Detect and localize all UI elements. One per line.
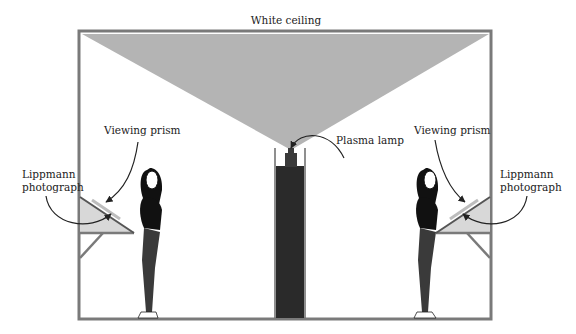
right-lippmann-label-line1: Lippmann <box>500 168 554 181</box>
plasma-lamp-column <box>275 148 305 318</box>
left-prism-arrow <box>106 142 138 202</box>
left-lippmann-label-line1: Lippmann <box>22 168 76 181</box>
right-prism-arrow <box>435 140 465 202</box>
plasma-lamp-label: Plasma lamp <box>336 134 404 147</box>
left-viewing-prism-label: Viewing prism <box>104 124 181 137</box>
right-viewing-prism-label: Viewing prism <box>414 124 491 137</box>
right-lippmann-label-line2: photograph <box>500 181 562 194</box>
right-viewer-figure <box>414 168 438 318</box>
right-viewing-station <box>436 197 490 258</box>
left-viewing-station <box>80 197 134 258</box>
left-viewer-figure <box>138 168 162 318</box>
room-diagram <box>0 0 576 334</box>
left-lippmann-label-line2: photograph <box>22 181 84 194</box>
white-ceiling-label: White ceiling <box>236 14 336 27</box>
